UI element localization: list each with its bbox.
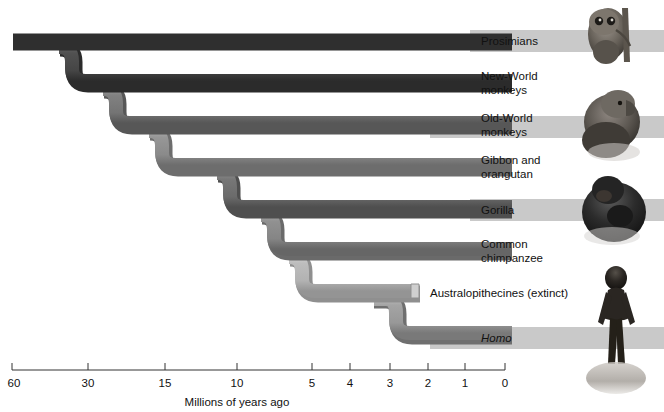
axis-label-10: 10 xyxy=(231,377,244,389)
label-prosimians: Prosimians xyxy=(481,35,538,47)
axis-label-15: 15 xyxy=(159,377,172,389)
tarsier-photo xyxy=(588,8,630,64)
axis-label-30: 30 xyxy=(82,377,95,389)
tree-canvas: Prosimians New-World monkeys Old-World m… xyxy=(0,0,664,412)
axis-label-60: 60 xyxy=(8,377,21,389)
extinction-terminus xyxy=(411,284,419,298)
label-australopithecines: Australopithecines (extinct) xyxy=(430,287,568,299)
label-gibbon-orangutan-line1: Gibbon and xyxy=(481,154,540,166)
label-old-world-monkeys-line1: Old-World xyxy=(481,112,533,124)
axis-label-0: 0 xyxy=(502,377,508,389)
branch-old-world-monkeys-fill xyxy=(103,89,512,123)
label-gibbon-orangutan-line2: orangutan xyxy=(481,168,533,180)
old-world-monkey-photo xyxy=(582,90,640,161)
axis-label-4: 4 xyxy=(347,377,354,389)
label-gorilla: Gorilla xyxy=(481,204,515,216)
label-homo: Homo xyxy=(481,332,512,344)
axis-label-3: 3 xyxy=(387,377,393,389)
axis-label-5: 5 xyxy=(309,377,315,389)
label-new-world-monkeys-line2: monkeys xyxy=(481,84,527,96)
label-common-chimpanzee-line1: Common xyxy=(481,238,528,250)
gorilla-photo xyxy=(582,176,646,245)
label-old-world-monkeys-line2: monkeys xyxy=(481,126,527,138)
branch-homo-fill xyxy=(374,299,512,333)
label-new-world-monkeys-line1: New-World xyxy=(481,70,538,82)
primate-evolutionary-tree-figure: Prosimians New-World monkeys Old-World m… xyxy=(0,0,664,412)
axis-label-1: 1 xyxy=(462,377,468,389)
branch-new-world-monkeys-fill xyxy=(59,47,512,81)
branch-gorilla-fill xyxy=(217,173,512,207)
label-common-chimpanzee-line2: chimpanzee xyxy=(481,252,543,264)
axis-label-2: 2 xyxy=(425,377,431,389)
time-axis: 60 30 15 10 5 4 3 2 1 0 Millions of year… xyxy=(8,363,509,408)
axis-caption: Millions of years ago xyxy=(185,396,290,408)
